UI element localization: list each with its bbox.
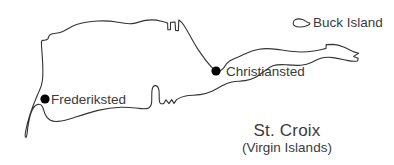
map-title-block: St. Croix (Virgin Islands): [232, 121, 342, 156]
city-label-christiansted: Christiansted: [226, 64, 305, 79]
marker-christiansted[interactable]: [211, 66, 220, 75]
island-label-buck-island: Buck Island: [313, 15, 383, 30]
map-title: St. Croix: [232, 121, 342, 140]
buck-island-shape: [293, 19, 310, 27]
map-subtitle: (Virgin Islands): [232, 140, 342, 156]
marker-frederiksted[interactable]: [40, 94, 49, 103]
city-label-frederiksted: Frederiksted: [51, 92, 126, 107]
st-croix-coastline: [25, 20, 358, 137]
